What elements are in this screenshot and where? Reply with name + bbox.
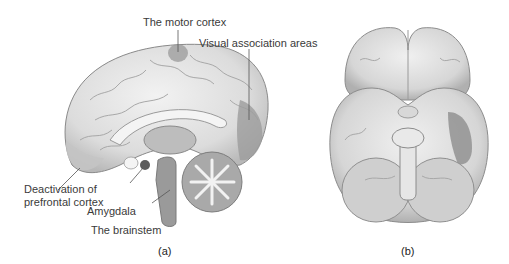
panel-label-b: (b): [401, 245, 414, 257]
label-deactivation-prefrontal-line1: Deactivation of: [24, 183, 97, 195]
label-visual-association-areas: Visual association areas: [199, 37, 317, 49]
label-motor-cortex: The motor cortex: [143, 16, 226, 28]
inferior-brain: [330, 28, 488, 223]
label-brainstem: The brainstem: [91, 224, 161, 236]
label-amygdala: Amygdala: [87, 205, 136, 217]
panel-label-a: (a): [158, 245, 171, 257]
